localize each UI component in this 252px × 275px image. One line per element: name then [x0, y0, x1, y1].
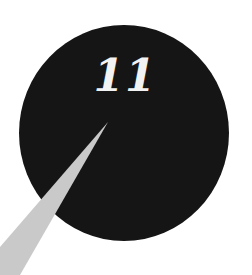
callout-shapes: [0, 0, 252, 275]
badge-number: 11: [80, 52, 170, 100]
callout-graphic: 11: [0, 0, 252, 275]
